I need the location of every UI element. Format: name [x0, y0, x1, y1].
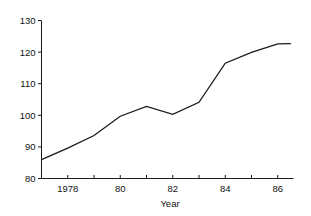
- x-tick-label: 80: [115, 183, 126, 194]
- x-tick-label: 84: [220, 183, 231, 194]
- y-tick-label: 130: [20, 15, 36, 26]
- y-tick-label: 110: [20, 78, 35, 89]
- y-tick-label: 80: [25, 173, 36, 184]
- chart-background: [0, 0, 311, 216]
- y-tick-label: 90: [25, 141, 36, 152]
- y-tick-label: 120: [20, 47, 36, 58]
- x-tick-label: 86: [272, 183, 283, 194]
- line-chart-figure: 8090100110120130 197880828486 Year: [0, 0, 311, 216]
- x-tick-label: 82: [167, 183, 178, 194]
- y-tick-label: 100: [20, 110, 36, 121]
- x-tick-label: 1978: [57, 183, 78, 194]
- x-axis-title: Year: [160, 198, 179, 209]
- chart-canvas: 8090100110120130 197880828486 Year: [0, 0, 311, 216]
